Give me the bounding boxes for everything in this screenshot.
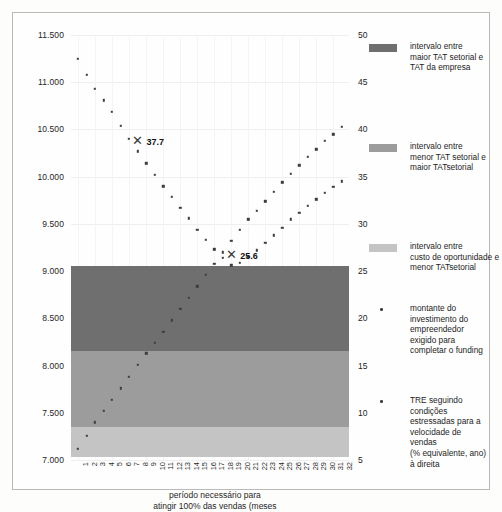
chart-frame: 11.50011.00010.50010.0009.5009.0008.5008… (12, 12, 490, 490)
x-axis-tick: 17 (217, 462, 226, 470)
data-point-series-1 (162, 330, 164, 332)
y-axis-right-tick: 10 (358, 408, 368, 418)
data-point-series-1 (256, 209, 258, 211)
data-point-series-1 (77, 447, 79, 449)
data-point-series-2 (128, 138, 130, 140)
data-point-series-2 (119, 124, 121, 126)
data-point-series-1 (307, 156, 309, 158)
shaded-band-3 (71, 427, 349, 457)
data-point-series-2 (298, 211, 300, 213)
y-axis-right-tick: 5 (358, 455, 363, 465)
x-axis-tick: 32 (345, 462, 354, 470)
data-point-series-1 (281, 181, 283, 183)
data-point-series-2 (162, 185, 164, 187)
data-point-series-2 (170, 195, 172, 197)
legend-swatch (369, 244, 397, 252)
y-axis-right-tick: 25 (358, 266, 368, 276)
data-point-series-2 (77, 57, 79, 59)
y-axis-left-tick: 10.000 (37, 172, 64, 182)
data-point-series-1 (205, 274, 207, 276)
legend-swatch (369, 144, 397, 152)
data-point-series-2 (188, 217, 190, 219)
data-point-series-2 (85, 73, 87, 75)
plot-inner: 11.50011.00010.50010.0009.5009.0008.5008… (71, 35, 349, 460)
annotation-x-marker: ✕ (226, 248, 237, 261)
data-point-series-1 (94, 421, 96, 423)
data-point-series-2 (307, 205, 309, 207)
data-point-series-2 (222, 257, 224, 259)
data-point-series-2 (264, 242, 266, 244)
x-axis-title-line1: período necessário para (153, 490, 276, 501)
data-point-series-1 (264, 200, 266, 202)
data-point-series-2 (324, 192, 326, 194)
legend-marker-dot (380, 308, 383, 311)
x-axis-title: período necessário para atingir 100% das… (153, 490, 276, 512)
data-point-series-2 (196, 228, 198, 230)
data-point-series-1 (153, 342, 155, 344)
data-point-series-1 (324, 140, 326, 142)
data-point-series-2 (341, 180, 343, 182)
plot-area: 11.50011.00010.50010.0009.5009.0008.5008… (71, 35, 349, 460)
y-axis-left-tick: 8.000 (42, 361, 64, 371)
shaded-band-2 (71, 351, 349, 427)
data-point-series-2 (205, 239, 207, 241)
data-point-series-1 (341, 125, 343, 127)
legend-label: intervalo entre menor TAT setorial e mai… (410, 141, 486, 173)
data-point-series-1 (239, 228, 241, 230)
data-point-series-1 (119, 387, 121, 389)
data-point-series-2 (332, 186, 334, 188)
data-point-series-2 (281, 226, 283, 228)
shaded-band-1 (71, 266, 349, 351)
x-axis-tick: 19 (234, 462, 243, 470)
y-axis-left-tick: 11.000 (38, 77, 64, 87)
data-point-series-1 (298, 164, 300, 166)
x-axis-title-line2: atingir 100% das vendas (meses (153, 501, 276, 512)
data-point-series-2 (315, 198, 317, 200)
data-point-series-1 (196, 285, 198, 287)
data-point-series-1 (111, 398, 113, 400)
y-axis-left-tick: 7.000 (42, 455, 64, 465)
data-point-series-1 (213, 262, 215, 264)
data-point-series-1 (179, 308, 181, 310)
y-axis-right-tick: 35 (358, 172, 368, 182)
data-point-series-1 (332, 133, 334, 135)
y-axis-right-tick: 15 (358, 361, 368, 371)
legend-marker-dot (380, 400, 383, 403)
data-point-series-2 (145, 162, 147, 164)
x-axis-tick-labels: 1234567891011121314151617181920212223242… (71, 460, 349, 490)
y-axis-left-tick: 7.500 (42, 408, 64, 418)
x-axis-tick: 15 (200, 462, 209, 470)
data-point-series-2 (136, 150, 138, 152)
y-axis-right-tick: 20 (358, 313, 368, 323)
legend-label: TRE seguindo condições estressadas para … (410, 395, 501, 469)
data-point-series-2 (179, 207, 181, 209)
data-point-series-1 (273, 191, 275, 193)
legend-label: intervalo entre maior TAT setorial e TAT… (410, 41, 483, 73)
data-point-series-1 (145, 352, 147, 354)
y-axis-left-tick: 9.500 (42, 219, 64, 229)
data-point-series-2 (239, 261, 241, 263)
x-axis-tick: 13 (183, 462, 192, 470)
y-axis-left-tick: 9.000 (42, 266, 64, 276)
x-axis-tick: 9 (149, 462, 158, 466)
data-point-series-1 (102, 410, 104, 412)
data-point-series-2 (213, 248, 215, 250)
legend-label: montante do investimento do empreendedor… (410, 303, 483, 356)
x-axis-tick: 11 (166, 462, 175, 470)
x-axis-tick: 21 (251, 462, 260, 470)
data-point-series-1 (315, 148, 317, 150)
data-point-series-1 (290, 173, 292, 175)
y-axis-right-tick: 30 (358, 219, 368, 229)
y-axis-right-tick: 40 (358, 124, 368, 134)
data-point-series-1 (136, 364, 138, 366)
data-point-series-1 (188, 296, 190, 298)
annotation-label: 25.6 (240, 251, 258, 261)
annotation-x-marker: ✕ (132, 134, 143, 147)
data-point-series-1 (128, 376, 130, 378)
y-axis-left-tick: 10.500 (37, 124, 64, 134)
data-point-series-2 (230, 264, 232, 266)
x-axis-tick: 3 (98, 462, 107, 466)
data-point-series-1 (170, 319, 172, 321)
legend-label: intervalo entre custo de oportunidade e … (410, 241, 499, 273)
x-axis-tick: 7 (132, 462, 141, 466)
